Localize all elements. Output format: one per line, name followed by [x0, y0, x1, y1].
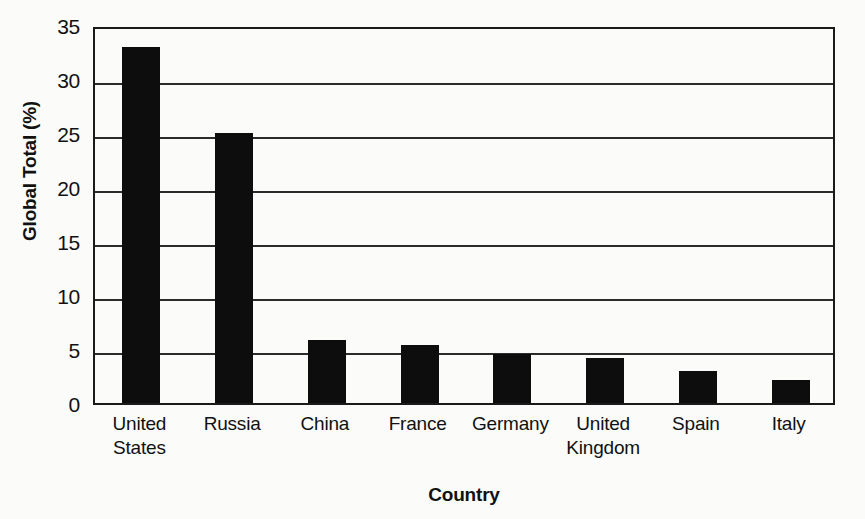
plot-area [93, 27, 835, 405]
y-axis-tick-label: 10 [28, 286, 80, 307]
bar [772, 380, 810, 403]
y-axis-tick-label: 5 [28, 340, 80, 361]
y-axis-tick-label: 30 [28, 70, 80, 91]
y-axis-tick-labels: 05101520253035 [24, 0, 80, 519]
y-axis-tick-label: 15 [28, 232, 80, 253]
bar-chart: Global Total (%) 05101520253035 UnitedSt… [0, 0, 865, 519]
bar [122, 47, 160, 403]
x-axis-tick-label-line: Kingdom [548, 436, 658, 460]
x-axis-tick-label-line: Italy [734, 412, 844, 436]
bar [586, 358, 624, 403]
bar [308, 340, 346, 403]
bar [679, 371, 717, 403]
y-axis-tick-label: 0 [28, 394, 80, 415]
x-axis-tick-label: Italy [734, 412, 844, 436]
bars-group [95, 29, 833, 403]
x-axis-title: Country [93, 484, 835, 506]
bar [215, 133, 253, 403]
x-axis-tick-label-line: States [84, 436, 194, 460]
bar [493, 354, 531, 403]
x-axis-tick-labels: UnitedStatesRussiaChinaFranceGermanyUnit… [93, 412, 835, 474]
y-axis-tick-label: 25 [28, 124, 80, 145]
bar [401, 345, 439, 403]
y-axis-tick-label: 20 [28, 178, 80, 199]
y-axis-tick-label: 35 [28, 16, 80, 37]
